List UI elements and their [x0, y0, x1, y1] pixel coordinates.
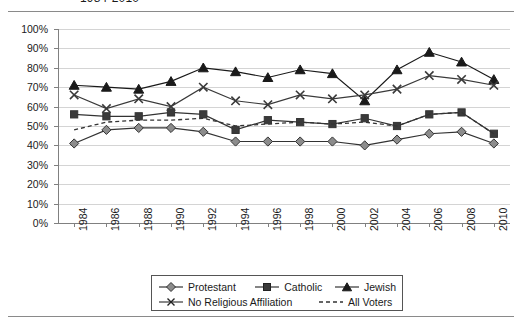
chart-legend: Protestant Catholic Jewish No Religio: [151, 275, 403, 311]
legend-label-jewish: Jewish: [364, 281, 396, 293]
x-axis-tick-label: 1990: [175, 208, 186, 231]
triangle-marker-icon: [334, 281, 360, 293]
data-point-marker: [231, 137, 240, 146]
y-axis-tick-label: 30%: [2, 160, 48, 171]
data-point-marker: [490, 130, 497, 137]
data-point-marker: [198, 63, 208, 72]
legend-item-jewish[interactable]: Jewish: [334, 281, 396, 293]
x-axis-tick-label: 2000: [336, 208, 347, 231]
top-divider-rule: [8, 11, 514, 12]
data-point-marker: [296, 137, 305, 146]
y-axis-tick-label: 80%: [2, 63, 48, 74]
y-axis-tick-label: 10%: [2, 199, 48, 210]
series-protestant: [70, 123, 499, 150]
data-point-marker: [103, 113, 110, 120]
legend-item-protestant[interactable]: Protestant: [158, 281, 254, 293]
y-axis-tick-label: 70%: [2, 82, 48, 93]
data-point-marker: [199, 127, 208, 136]
x-axis-tick-label: 2002: [369, 208, 380, 231]
y-axis-tick-label: 0%: [2, 218, 48, 229]
x-marker-icon: [158, 296, 184, 308]
data-point-marker: [264, 117, 271, 124]
data-point-marker: [328, 137, 337, 146]
data-point-marker: [263, 137, 272, 146]
chart-title: 1984-2010: [80, 0, 139, 5]
legend-item-no-religious-affiliation[interactable]: No Religious Affiliation: [158, 296, 318, 308]
data-point-marker: [360, 141, 369, 150]
legend-row-2: No Religious Affiliation All Voters: [158, 294, 396, 309]
data-point-marker: [102, 125, 111, 134]
legend-label-protestant: Protestant: [188, 281, 236, 293]
square-marker-icon: [254, 281, 280, 293]
x-axis-tick-label: 1984: [78, 208, 89, 231]
legend-label-catholic: Catholic: [284, 281, 322, 293]
data-point-marker: [361, 115, 368, 122]
x-axis-tick-label: 1986: [110, 208, 121, 231]
data-point-marker: [69, 80, 79, 89]
data-point-marker: [458, 109, 465, 116]
dashed-line-marker-icon: [318, 296, 344, 308]
x-axis-tick-label: 1996: [272, 208, 283, 231]
y-axis-tick-label: 60%: [2, 102, 48, 113]
data-point-marker: [425, 129, 434, 138]
y-axis-tick-label: 50%: [2, 121, 48, 132]
x-axis-tick-label: 1992: [207, 208, 218, 231]
data-point-marker: [392, 65, 402, 74]
data-point-marker: [489, 139, 498, 148]
data-point-marker: [424, 47, 434, 56]
legend-item-catholic[interactable]: Catholic: [254, 281, 334, 293]
data-point-marker: [232, 126, 239, 133]
diamond-marker-icon: [158, 281, 184, 293]
data-point-marker: [457, 57, 467, 66]
data-point-marker: [295, 65, 305, 74]
y-axis-tick-label: 20%: [2, 179, 48, 190]
y-axis-tick-label: 40%: [2, 140, 48, 151]
data-point-marker: [135, 113, 142, 120]
data-point-marker: [134, 123, 143, 132]
x-axis-tick-label: 2004: [401, 208, 412, 231]
data-point-marker: [392, 135, 401, 144]
data-point-marker: [200, 111, 207, 118]
data-point-marker: [166, 77, 176, 86]
x-axis-tick-label: 1988: [143, 208, 154, 231]
legend-row-1: Protestant Catholic Jewish: [158, 279, 396, 294]
data-point-marker: [135, 95, 143, 103]
data-point-marker: [71, 111, 78, 118]
data-point-marker: [199, 83, 207, 91]
x-axis-tick-label: 1994: [240, 208, 251, 231]
x-axis-tick-label: 1998: [304, 208, 315, 231]
legend-label-all-voters: All Voters: [348, 296, 392, 308]
data-point-marker: [70, 91, 78, 99]
legend-label-no-religious-affiliation: No Religious Affiliation: [188, 296, 292, 308]
legend-item-all-voters[interactable]: All Voters: [318, 296, 392, 308]
data-point-marker: [102, 104, 110, 112]
y-axis-tick-label: 100%: [2, 24, 48, 35]
bottom-divider-rule: [8, 316, 514, 317]
data-point-marker: [70, 139, 79, 148]
y-axis-tick-label: 90%: [2, 43, 48, 54]
chart-title-clipped: 1984-2010: [0, 0, 522, 5]
data-point-marker: [457, 127, 466, 136]
x-axis-tick-label: 2010: [498, 208, 509, 231]
chart-page: 1984-2010 100%90%80%70%60%50%40%30%20%10…: [0, 0, 522, 328]
plot-area: 100%90%80%70%60%50%40%30%20%10%0% 198419…: [58, 29, 510, 223]
x-axis-tick-label: 2008: [466, 208, 477, 231]
data-point-marker: [166, 123, 175, 132]
x-axis-tick-label: 2006: [433, 208, 444, 231]
series-plot-svg: [58, 29, 510, 224]
